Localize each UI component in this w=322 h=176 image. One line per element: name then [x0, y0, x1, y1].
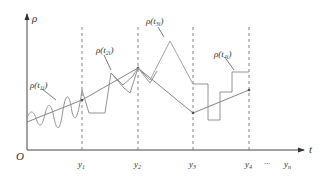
tick-yn: yn: [283, 159, 291, 170]
ellipsis: ···: [264, 159, 270, 168]
curve-labels: ρ(t1i) ρ(t2i) ρ(t3i) ρ(t4i): [29, 16, 232, 91]
tick-y3: y3: [188, 159, 196, 170]
y-axis-label: ρ: [31, 12, 37, 24]
tick-y4: y4: [244, 159, 252, 170]
curve-segment-1: [27, 90, 82, 128]
x-axis-label: t: [309, 143, 313, 155]
curve-segment-3: [138, 41, 193, 84]
tick-y2: y2: [133, 159, 141, 170]
dashed-guides: [82, 27, 249, 150]
tick-y1: y1: [77, 159, 85, 170]
label-rho-t3i: ρ(t3i): [145, 16, 164, 27]
origin-label: O: [16, 150, 24, 162]
axes: [27, 14, 304, 150]
tick-labels: y1 y2 y3 y4 ··· yn: [77, 159, 291, 170]
label-rho-t4i: ρ(t4i): [213, 49, 232, 60]
diagram-canvas: ρ t O y1 y2 y3 y4 ··· yn ρ(t1i) ρ(t2i) ρ…: [0, 0, 322, 176]
curve-segment-4: [193, 72, 249, 120]
label-rho-t2i: ρ(t2i): [95, 45, 114, 56]
label-rho-t1i: ρ(t1i): [29, 80, 48, 91]
curve-segment-2b: [111, 68, 138, 93]
